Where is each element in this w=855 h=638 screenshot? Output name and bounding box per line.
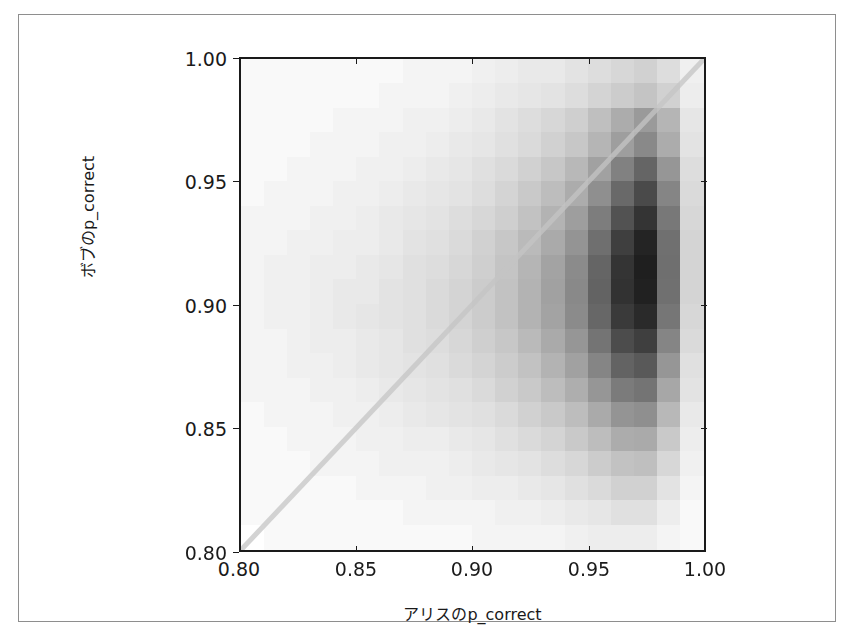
x-tick-mark-top	[356, 58, 357, 64]
x-tick-mark	[239, 546, 240, 552]
y-tick-mark	[233, 428, 239, 429]
x-tick-mark	[472, 546, 473, 552]
x-tick-label: 1.00	[665, 558, 745, 580]
x-axis-label: アリスのp_correct	[239, 601, 706, 625]
x-tick-label: 0.85	[316, 558, 396, 580]
y-tick-label: 0.85	[137, 418, 227, 440]
x-tick-mark	[705, 546, 706, 552]
y-tick-mark	[233, 58, 239, 59]
x-tick-mark	[589, 546, 590, 552]
y-tick-label: 0.80	[137, 542, 227, 564]
y-tick-label: 0.90	[137, 295, 227, 317]
y-tick-mark-right	[701, 305, 707, 306]
y-axis-label: ボブのp_correct	[75, 87, 99, 347]
figure-frame: 0.80 0.85 0.90 0.95 1.00 0.80 0.85 0.90 …	[18, 14, 836, 622]
plot-area	[239, 57, 706, 552]
y-tick-mark	[233, 552, 239, 553]
y-tick-mark-right	[701, 181, 707, 182]
y-tick-mark	[233, 181, 239, 182]
y-tick-label: 1.00	[137, 48, 227, 70]
x-tick-mark-top	[589, 58, 590, 64]
y-tick-mark	[233, 305, 239, 306]
heatmap-canvas	[241, 59, 704, 550]
x-tick-label: 0.90	[432, 558, 512, 580]
y-tick-label: 0.95	[137, 171, 227, 193]
y-tick-mark-right	[701, 428, 707, 429]
x-tick-mark	[356, 546, 357, 552]
x-tick-label: 0.95	[549, 558, 629, 580]
x-tick-mark-top	[472, 58, 473, 64]
